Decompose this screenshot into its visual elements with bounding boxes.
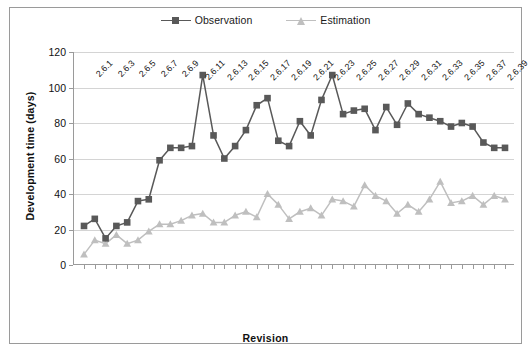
data-point-square bbox=[135, 198, 142, 205]
series-layer bbox=[73, 52, 514, 265]
data-point-triangle bbox=[91, 236, 99, 243]
series-line bbox=[84, 182, 505, 255]
data-point-square bbox=[318, 97, 325, 104]
data-point-square bbox=[351, 107, 358, 114]
data-point-square bbox=[361, 106, 368, 113]
data-point-triangle bbox=[177, 217, 185, 224]
data-point-square bbox=[102, 235, 109, 242]
x-axis-line bbox=[73, 264, 514, 265]
x-axis-title: Revision bbox=[0, 332, 531, 344]
data-point-square bbox=[145, 196, 152, 203]
data-point-square bbox=[437, 118, 444, 125]
data-point-triangle bbox=[264, 190, 272, 197]
data-point-triangle bbox=[361, 181, 369, 188]
data-point-square bbox=[297, 118, 304, 125]
data-point-triangle bbox=[307, 204, 315, 211]
data-point-square bbox=[329, 72, 336, 79]
data-point-triangle bbox=[469, 192, 477, 199]
data-point-square bbox=[264, 95, 271, 102]
y-axis-title: Development time (days) bbox=[24, 66, 36, 246]
data-point-square bbox=[199, 72, 206, 79]
data-point-square bbox=[469, 123, 476, 130]
data-point-triangle bbox=[426, 195, 434, 202]
data-point-triangle bbox=[145, 227, 153, 234]
data-point-square bbox=[383, 104, 390, 111]
data-point-square bbox=[415, 111, 422, 118]
data-point-square bbox=[221, 155, 228, 162]
data-point-triangle bbox=[199, 210, 207, 217]
data-point-square bbox=[189, 143, 196, 150]
data-point-square bbox=[502, 145, 509, 152]
chart-container: Observation Estimation Development time … bbox=[0, 0, 531, 352]
data-point-square bbox=[253, 102, 260, 109]
data-point-square bbox=[91, 216, 98, 223]
data-point-square bbox=[286, 143, 293, 150]
series-estimation bbox=[80, 178, 509, 258]
data-point-square bbox=[426, 114, 433, 121]
data-point-square bbox=[448, 123, 455, 130]
data-point-square bbox=[491, 145, 498, 152]
data-point-square bbox=[243, 127, 250, 134]
data-point-square bbox=[178, 145, 185, 152]
data-point-square bbox=[232, 143, 239, 150]
data-point-square bbox=[156, 157, 163, 164]
data-point-triangle bbox=[490, 192, 498, 199]
data-point-square bbox=[480, 139, 487, 146]
plot-area: 020406080100120 2.6.12.6.32.6.52.6.72.6.… bbox=[73, 52, 514, 265]
data-point-triangle bbox=[436, 178, 444, 185]
data-point-square bbox=[210, 132, 217, 139]
data-point-square bbox=[167, 145, 174, 152]
data-point-square bbox=[394, 121, 401, 128]
data-point-triangle bbox=[242, 208, 250, 215]
series-line bbox=[84, 75, 505, 238]
data-point-square bbox=[113, 223, 120, 230]
data-point-triangle bbox=[404, 201, 412, 208]
y-axis-line bbox=[73, 52, 74, 265]
data-point-square bbox=[124, 219, 131, 226]
data-point-square bbox=[81, 223, 88, 230]
data-point-square bbox=[372, 127, 379, 134]
data-point-triangle bbox=[458, 197, 466, 204]
data-point-square bbox=[405, 100, 412, 107]
data-point-square bbox=[275, 137, 282, 144]
data-point-square bbox=[459, 120, 466, 127]
data-point-square bbox=[340, 111, 347, 118]
data-point-square bbox=[307, 132, 314, 139]
data-point-triangle bbox=[112, 231, 120, 238]
data-point-triangle bbox=[350, 203, 358, 210]
data-point-triangle bbox=[382, 197, 390, 204]
data-point-triangle bbox=[253, 213, 261, 220]
data-point-triangle bbox=[328, 195, 336, 202]
